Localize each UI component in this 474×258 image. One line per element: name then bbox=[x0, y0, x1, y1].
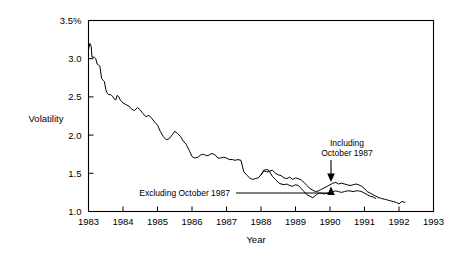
x-tick-label: 1986 bbox=[181, 216, 202, 227]
annotation-including-line1: Including bbox=[330, 138, 364, 148]
annotation-including-arrow-head bbox=[327, 174, 335, 183]
x-tick-label: 1991 bbox=[354, 216, 375, 227]
x-tick-label: 1984 bbox=[112, 216, 133, 227]
x-axis-ticks bbox=[123, 207, 399, 212]
x-tick-label: 1989 bbox=[285, 216, 306, 227]
x-axis-title: Year bbox=[246, 234, 265, 245]
x-axis-tick-labels: 1983198419851986198719881989199019911992… bbox=[78, 216, 444, 227]
x-tick-label: 1988 bbox=[250, 216, 271, 227]
x-tick-label: 1983 bbox=[78, 216, 99, 227]
x-tick-label: 1990 bbox=[319, 216, 340, 227]
plot-frame bbox=[89, 21, 434, 212]
y-tick-label: 2.0 bbox=[68, 130, 81, 141]
y-axis-title: Volatility bbox=[29, 113, 64, 124]
volatility-chart-figure: 3.5%3.02.52.01.51.0 19831984198519861987… bbox=[0, 0, 474, 258]
data-series-group bbox=[89, 43, 405, 203]
x-tick-label: 1987 bbox=[216, 216, 237, 227]
annotation-excluding-arrow-head bbox=[327, 187, 335, 196]
y-tick-label: 3.0 bbox=[68, 53, 81, 64]
annotation-excluding-october-1987: Excluding October 1987 bbox=[139, 187, 335, 199]
series-line-0 bbox=[89, 43, 405, 203]
y-tick-label: 3.5% bbox=[60, 15, 82, 26]
annotation-excluding-label: Excluding October 1987 bbox=[139, 188, 230, 198]
x-tick-label: 1985 bbox=[147, 216, 168, 227]
y-tick-label: 2.5 bbox=[68, 91, 81, 102]
annotation-including-line2: October 1987 bbox=[321, 148, 373, 158]
x-tick-label: 1993 bbox=[423, 216, 444, 227]
y-tick-label: 1.5 bbox=[68, 168, 81, 179]
chart-canvas: 3.5%3.02.52.01.51.0 19831984198519861987… bbox=[0, 0, 474, 258]
x-tick-label: 1992 bbox=[388, 216, 409, 227]
annotation-including-october-1987: Including October 1987 bbox=[321, 138, 373, 182]
